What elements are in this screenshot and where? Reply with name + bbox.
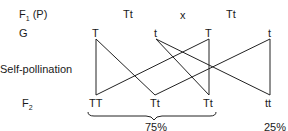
f2-Tt-2: Tt bbox=[203, 97, 213, 109]
gamete-3: T bbox=[205, 27, 212, 39]
gamete-4: t bbox=[268, 27, 271, 39]
f2-Tt-1: Tt bbox=[150, 97, 160, 109]
recessive-percentage: 25% bbox=[264, 121, 286, 131]
dominant-percentage: 75% bbox=[145, 121, 167, 131]
f1-label: F1 (P) bbox=[19, 8, 47, 25]
f2-tt: tt bbox=[265, 97, 271, 109]
gamete-1: T bbox=[92, 27, 99, 39]
cross-symbol: x bbox=[180, 9, 186, 21]
gamete-2: t bbox=[154, 27, 157, 39]
f2-label: F2 bbox=[22, 97, 33, 114]
brace bbox=[88, 112, 216, 120]
f2-TT: TT bbox=[89, 97, 102, 109]
parent-2: Tt bbox=[226, 8, 236, 20]
self-pollination-label: Self-pollination bbox=[0, 63, 72, 75]
gamete-row-label: G bbox=[19, 27, 28, 39]
parent-1: Tt bbox=[123, 8, 133, 20]
